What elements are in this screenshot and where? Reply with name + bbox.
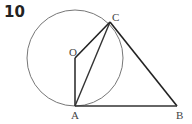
label-C: C	[112, 11, 119, 23]
label-O: O	[69, 46, 77, 58]
segment-CB	[110, 22, 177, 106]
segment-OC	[75, 22, 110, 58]
label-B: B	[176, 109, 183, 121]
label-A: A	[71, 109, 79, 121]
segment-AC	[75, 22, 110, 106]
geometry-diagram: O C A B	[0, 0, 192, 124]
